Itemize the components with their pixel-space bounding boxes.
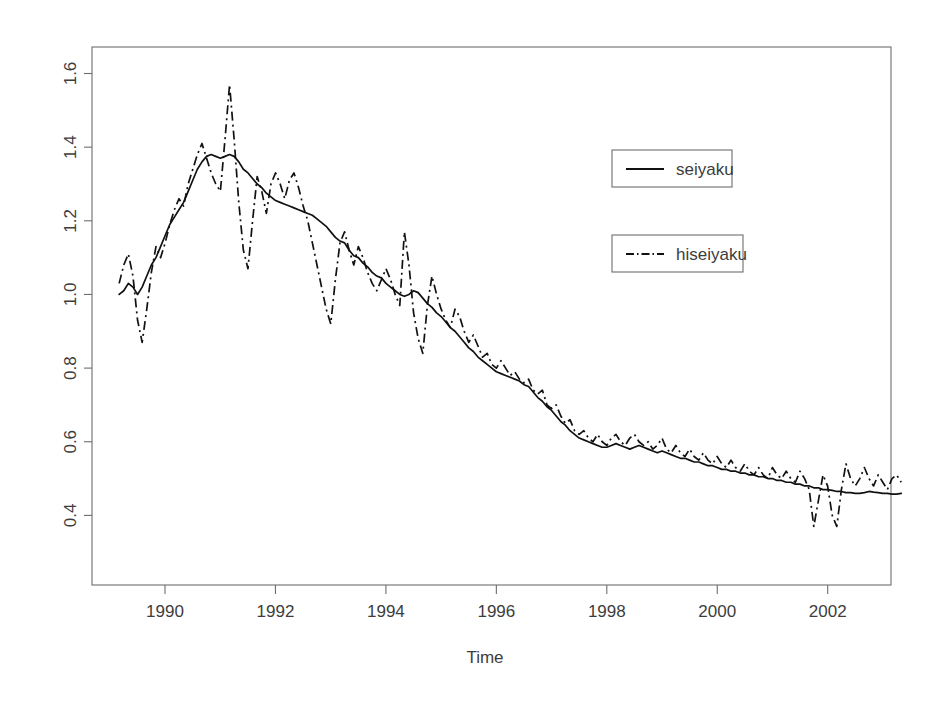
y-axis-tick-label: 0.8: [61, 356, 80, 380]
legend-entry-seiyaku[interactable]: seiyaku: [612, 150, 734, 187]
y-axis-tick-label: 1.2: [61, 209, 80, 233]
x-axis-tick-label: 1992: [257, 602, 295, 621]
x-axis-tick-label: 1998: [588, 602, 626, 621]
x-axis-tick-label: 2000: [698, 602, 736, 621]
x-axis-title: Time: [466, 648, 503, 667]
chart-canvas: 0.40.60.81.01.21.41.6 199019921994199619…: [0, 0, 945, 705]
y-axis-tick-label: 0.6: [61, 430, 80, 454]
y-axis-tick-label: 1.4: [61, 135, 80, 159]
line-chart: 0.40.60.81.01.21.41.6 199019921994199619…: [0, 0, 945, 705]
x-axis-tick-label: 1994: [367, 602, 405, 621]
x-axis-tick-label: 1990: [146, 602, 184, 621]
legend-label-seiyaku: seiyaku: [676, 160, 734, 179]
y-axis-tick-label: 1.0: [61, 283, 80, 307]
legend-entry-hiseiyaku[interactable]: hiseiyaku: [612, 235, 747, 272]
x-axis-tick-label: 1996: [477, 602, 515, 621]
chart-background: [0, 0, 945, 705]
x-axis-tick-label: 2002: [809, 602, 847, 621]
legend-label-hiseiyaku: hiseiyaku: [676, 245, 747, 264]
y-axis-tick-label: 0.4: [61, 504, 80, 528]
y-axis-tick-label: 1.6: [61, 62, 80, 86]
